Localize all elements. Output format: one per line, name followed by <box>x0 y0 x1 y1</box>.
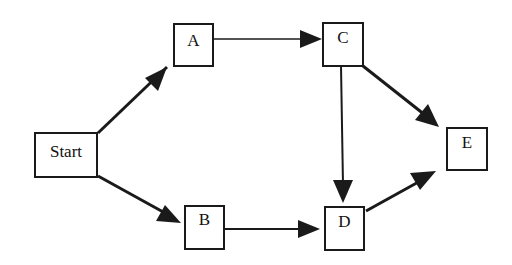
arrowhead-start-b-icon <box>156 205 181 223</box>
node-start: Start <box>34 132 98 178</box>
node-label: C <box>337 28 348 65</box>
node-label: D <box>338 212 350 249</box>
arrowhead-c-d-icon <box>333 180 353 203</box>
node-d: D <box>324 206 365 251</box>
arrowhead-b-d-icon <box>298 220 320 238</box>
edge-d-e <box>366 180 422 211</box>
arrowhead-d-e-icon <box>410 171 436 190</box>
edge-c-d <box>341 66 343 185</box>
node-c: C <box>322 22 364 67</box>
node-label: A <box>187 31 199 65</box>
node-label: Start <box>50 142 82 176</box>
node-b: B <box>184 205 225 250</box>
node-label: E <box>462 133 472 169</box>
edge-c-e <box>363 66 425 115</box>
node-a: A <box>173 23 214 67</box>
node-e: E <box>446 127 488 171</box>
edge-start-b <box>98 176 165 213</box>
arrowhead-start-a-icon <box>145 67 167 91</box>
arrowhead-c-e-icon <box>415 104 439 127</box>
arrowhead-a-c-icon <box>300 30 322 48</box>
node-label: B <box>199 210 210 248</box>
